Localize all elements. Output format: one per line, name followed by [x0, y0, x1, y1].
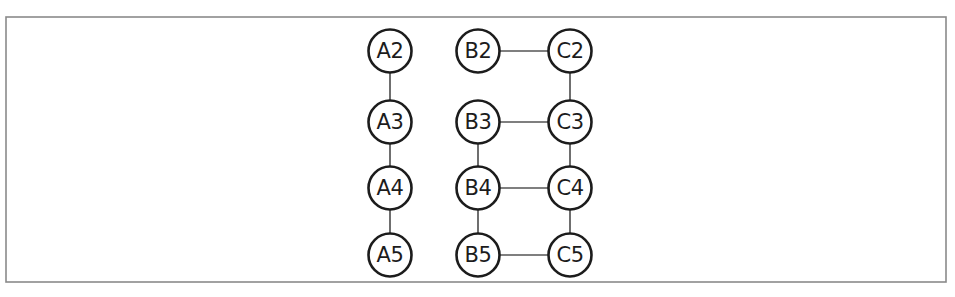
graph-node-b4[interactable]: B4	[457, 167, 500, 210]
node-label-a2: A2	[377, 39, 404, 63]
graph-node-b3[interactable]: B3	[457, 101, 500, 144]
node-label-b5: B5	[465, 243, 492, 267]
edge-layer	[390, 51, 570, 255]
node-label-c5: C5	[556, 243, 583, 267]
node-label-c2: C2	[556, 39, 583, 63]
graph-node-c4[interactable]: C4	[549, 167, 592, 210]
node-label-c4: C4	[556, 176, 583, 200]
node-label-a5: A5	[377, 243, 404, 267]
graph-node-c3[interactable]: C3	[549, 101, 592, 144]
node-label-a4: A4	[377, 176, 404, 200]
graph-figure: A2A3A4A5B2B3B4B5C2C3C4C5	[0, 0, 955, 297]
node-layer: A2A3A4A5B2B3B4B5C2C3C4C5	[369, 30, 592, 277]
graph-canvas: A2A3A4A5B2B3B4B5C2C3C4C5	[0, 0, 955, 297]
node-label-b3: B3	[465, 110, 492, 134]
graph-node-c2[interactable]: C2	[549, 30, 592, 73]
graph-node-a5[interactable]: A5	[369, 234, 412, 277]
graph-node-b2[interactable]: B2	[457, 30, 500, 73]
node-label-b4: B4	[465, 176, 492, 200]
node-label-a3: A3	[377, 110, 404, 134]
graph-node-a2[interactable]: A2	[369, 30, 412, 73]
graph-node-a4[interactable]: A4	[369, 167, 412, 210]
graph-node-c5[interactable]: C5	[549, 234, 592, 277]
graph-node-a3[interactable]: A3	[369, 101, 412, 144]
node-label-b2: B2	[465, 39, 492, 63]
node-label-c3: C3	[556, 110, 583, 134]
graph-node-b5[interactable]: B5	[457, 234, 500, 277]
